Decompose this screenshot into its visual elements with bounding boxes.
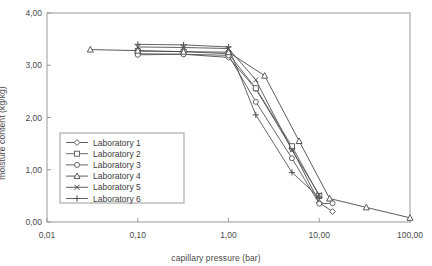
data-point-diamond (330, 209, 336, 215)
plot-canvas (0, 0, 432, 266)
legend-label-2: Laboratory 2 (93, 149, 141, 159)
data-point-circle (253, 99, 258, 104)
data-point-plus (253, 112, 259, 118)
legend-label-6: Laboratory 6 (93, 194, 141, 204)
chart-figure: moisture content (kg/kg) capillary press… (0, 0, 432, 266)
data-point-cross (253, 77, 258, 82)
data-point-triangle (296, 138, 302, 144)
x-tick-label: 100,00 (397, 230, 423, 240)
legend-label-1: Laboratory 1 (93, 138, 141, 148)
data-point-triangle (262, 73, 268, 79)
x-tick-label: 0,10 (129, 230, 146, 240)
x-tick-label: 0,01 (39, 230, 56, 240)
data-point-circle (75, 162, 80, 167)
data-point-square (253, 86, 258, 91)
y-tick-label: 1,00 (25, 165, 42, 175)
y-tick-label: 0,00 (25, 217, 42, 227)
x-tick-label: 10,00 (309, 230, 330, 240)
legend-label-4: Laboratory 4 (93, 171, 141, 181)
data-point-circle (317, 201, 322, 206)
data-point-plus (135, 41, 141, 47)
y-tick-label: 2,00 (25, 113, 42, 123)
data-point-circle (289, 156, 294, 161)
data-point-circle (330, 201, 335, 206)
legend-label-3: Laboratory 3 (93, 160, 141, 170)
y-tick-label: 4,00 (25, 8, 42, 18)
data-point-plus (225, 44, 231, 50)
data-point-square (75, 151, 80, 156)
legend-label-5: Laboratory 5 (93, 182, 141, 192)
data-point-triangle (327, 195, 333, 201)
x-tick-label: 1,00 (220, 230, 237, 240)
y-tick-label: 3,00 (25, 60, 42, 70)
